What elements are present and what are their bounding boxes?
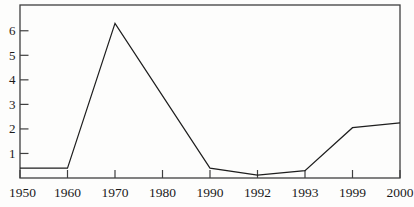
x-axis-tick-label: 2000 (387, 185, 414, 200)
data-line (20, 23, 400, 175)
line-chart-canvas: 1234561950196019701980199019921993199920… (0, 0, 414, 207)
y-axis-tick-label: 2 (9, 121, 16, 136)
x-axis-tick-label: 1999 (339, 185, 366, 200)
x-axis-tick-label: 1950 (9, 185, 36, 200)
x-axis-tick-label: 1980 (149, 185, 176, 200)
x-axis-tick-label: 1993 (292, 185, 319, 200)
y-axis-tick-label: 5 (9, 48, 16, 63)
x-axis-tick-label: 1960 (54, 185, 81, 200)
x-axis-tick-label: 1992 (244, 185, 271, 200)
y-axis-tick-label: 1 (9, 146, 16, 161)
y-axis-tick-label: 4 (9, 72, 16, 87)
x-axis-tick-label: 1970 (102, 185, 129, 200)
y-axis-tick-label: 3 (9, 97, 16, 112)
x-axis-tick-label: 1990 (197, 185, 224, 200)
plot-frame (20, 5, 400, 178)
line-chart-figure: 1234561950196019701980199019921993199920… (0, 0, 414, 207)
y-axis-tick-label: 6 (9, 23, 16, 38)
